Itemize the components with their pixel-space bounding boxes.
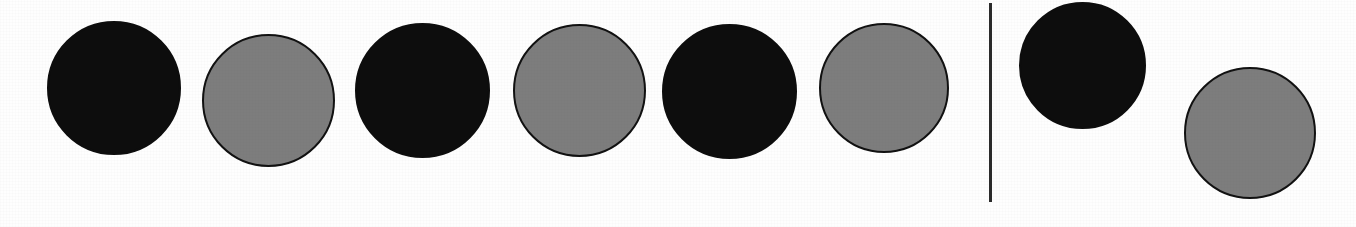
- token-8[interactable]: [1184, 67, 1316, 199]
- token-2[interactable]: [202, 34, 335, 167]
- figure-canvas: [0, 0, 1356, 227]
- token-7[interactable]: [1019, 2, 1146, 129]
- token-6[interactable]: [819, 23, 949, 153]
- token-1[interactable]: [47, 21, 181, 155]
- token-5[interactable]: [662, 24, 797, 159]
- token-3[interactable]: [355, 23, 490, 158]
- token-4[interactable]: [513, 24, 646, 157]
- group-divider: [989, 3, 992, 202]
